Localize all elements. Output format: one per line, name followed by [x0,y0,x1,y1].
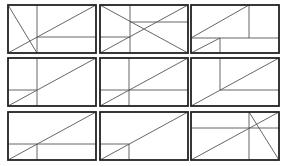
division-line [249,112,279,160]
diagram-panel-6 [191,58,279,106]
diagram-panel-7 [8,112,96,160]
division-line [100,112,188,160]
diagram-panel-4 [8,58,96,106]
diagram-panel-1 [8,5,96,53]
diagram-panel-3 [191,5,279,53]
division-line [191,38,220,53]
diagram-panel-5 [100,58,188,106]
division-line [191,58,279,106]
diagram-panel-9 [191,112,279,160]
division-line [100,58,188,106]
diagram-panel-2 [100,5,188,53]
division-line [8,58,96,106]
diagram-panel-8 [100,112,188,160]
golden-ratio-diagram-grid [0,0,283,166]
division-line [8,112,96,160]
division-line [8,5,37,53]
division-line [191,5,249,38]
division-line [8,5,96,53]
division-line [191,112,279,160]
